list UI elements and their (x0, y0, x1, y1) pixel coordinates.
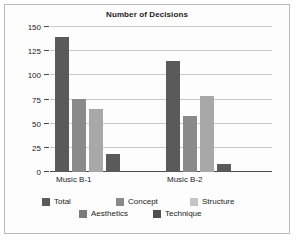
legend-row: AestheticsTechnique (79, 209, 215, 218)
legend-swatch-icon (116, 198, 124, 206)
legend-label: Concept (128, 197, 158, 206)
plot-area: 0255075100125150 (50, 27, 272, 172)
chart-legend: TotalConceptStructureAestheticsTechnique (5, 197, 289, 218)
bar-aesthetics[interactable] (72, 99, 86, 172)
legend-label: Technique (165, 209, 201, 218)
legend-label: Total (54, 197, 71, 206)
bar-groups (50, 27, 272, 172)
legend-item-technique[interactable]: Technique (153, 209, 215, 218)
legend-label: Structure (202, 197, 234, 206)
bar-concept[interactable] (200, 96, 214, 172)
legend-swatch-icon (153, 210, 161, 218)
y-tick-label: 100 (28, 71, 41, 80)
bar-group (161, 27, 272, 172)
y-tick-label: 125 (28, 47, 41, 56)
legend-swatch-icon (79, 210, 87, 218)
legend-swatch-icon (190, 198, 198, 206)
legend-item-aesthetics[interactable]: Aesthetics (79, 209, 141, 218)
bar-group (50, 27, 161, 172)
chart-container: Number of Decisions 0255075100125150 Mus… (4, 4, 290, 234)
y-tick-mark (44, 99, 49, 100)
bar-total[interactable] (166, 61, 180, 172)
legend-item-structure[interactable]: Structure (190, 197, 252, 206)
bar-technique[interactable] (106, 154, 120, 172)
y-tick-mark (44, 123, 49, 124)
legend-item-total[interactable]: Total (42, 197, 104, 206)
bar-concept[interactable] (89, 109, 103, 172)
y-tick-label: 25 (32, 143, 41, 152)
legend-item-concept[interactable]: Concept (116, 197, 178, 206)
y-tick-mark (44, 74, 49, 75)
x-axis-category-label: Music B-2 (161, 175, 272, 184)
chart-title: Number of Decisions (5, 10, 289, 19)
bar-total[interactable] (55, 37, 69, 172)
x-axis-category-label: Music B-1 (50, 175, 161, 184)
bar-technique[interactable] (217, 164, 231, 172)
legend-row: TotalConceptStructure (42, 197, 252, 206)
y-tick-mark (44, 147, 49, 148)
bar-aesthetics[interactable] (183, 116, 197, 172)
legend-label: Aesthetics (91, 209, 128, 218)
y-tick-label: 150 (28, 23, 41, 32)
y-tick-label: 50 (32, 119, 41, 128)
y-tick-label: 0 (37, 168, 41, 177)
y-tick-mark (44, 171, 49, 172)
legend-swatch-icon (42, 198, 50, 206)
y-tick-mark (44, 50, 49, 51)
x-axis-labels: Music B-1Music B-2 (50, 175, 272, 184)
y-tick-label: 75 (32, 95, 41, 104)
y-tick-mark (44, 26, 49, 27)
